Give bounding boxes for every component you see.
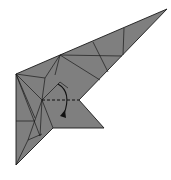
paper-body xyxy=(16,9,167,165)
paper-shape xyxy=(16,9,167,165)
origami-diagram xyxy=(0,0,171,180)
